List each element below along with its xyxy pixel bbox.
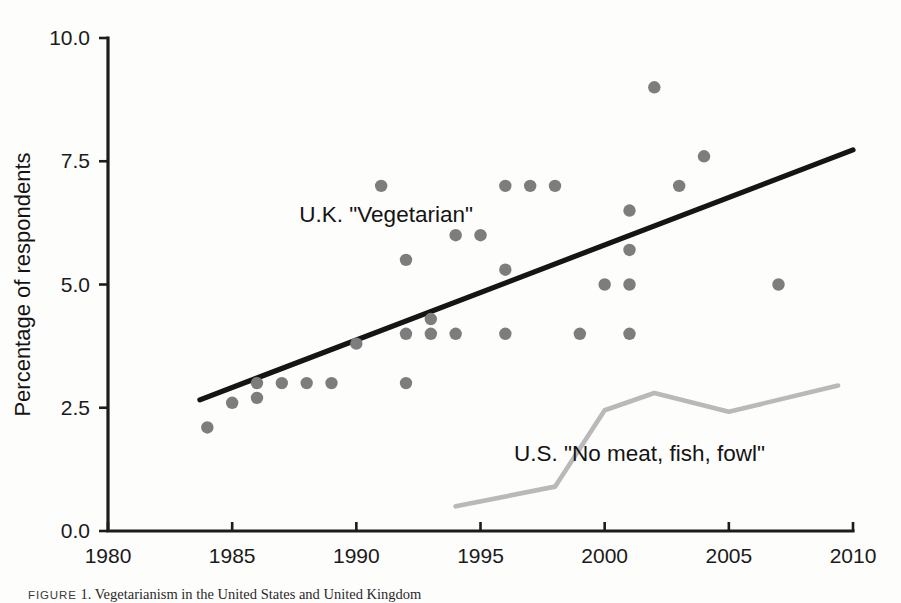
y-tick-label-0: 0.0 xyxy=(61,519,90,542)
figure-caption-number: 1. xyxy=(80,586,91,602)
us-series-label: U.S. "No meat, fish, fowl" xyxy=(514,441,765,466)
scatter-point xyxy=(251,377,263,389)
x-tick-label-1: 1985 xyxy=(209,544,256,567)
x-tick-label-0: 1980 xyxy=(85,544,132,567)
scatter-point xyxy=(474,229,486,241)
scatter-point xyxy=(400,254,412,266)
scatter-point xyxy=(648,81,660,93)
figure-caption: FIGURE 1. Vegetarianism in the United St… xyxy=(28,586,888,603)
y-axis-tick-labels: 0.02.55.07.510.0 xyxy=(49,26,90,542)
x-tick-label-3: 1995 xyxy=(457,544,504,567)
scatter-point xyxy=(673,180,685,192)
x-tick-label-6: 2010 xyxy=(830,544,877,567)
y-tick-label-4: 10.0 xyxy=(49,26,90,49)
scatter-point xyxy=(524,180,536,192)
scatter-point xyxy=(325,377,337,389)
figure-caption-label: FIGURE xyxy=(28,589,77,601)
scatter-point xyxy=(574,328,586,340)
scatter-point xyxy=(772,278,784,290)
scatter-point xyxy=(400,377,412,389)
x-tick-label-4: 2000 xyxy=(581,544,628,567)
figure-page: 1980198519901995200020052010 0.02.55.07.… xyxy=(0,0,901,603)
scatter-point xyxy=(276,377,288,389)
vegetarianism-chart: 1980198519901995200020052010 0.02.55.07.… xyxy=(0,0,901,603)
scatter-point xyxy=(201,421,213,433)
figure-caption-text: Vegetarianism in the United States and U… xyxy=(95,586,422,602)
scatter-point xyxy=(400,328,412,340)
uk-vegetarian-scatter xyxy=(201,81,785,434)
scatter-point xyxy=(623,244,635,256)
scatter-point xyxy=(375,180,387,192)
scatter-point xyxy=(598,278,610,290)
y-tick-label-3: 7.5 xyxy=(61,149,90,172)
scatter-point xyxy=(698,150,710,162)
y-tick-label-2: 5.0 xyxy=(61,273,90,296)
y-axis-label-text: Percentage of respondents xyxy=(10,152,35,416)
x-axis-tick-labels: 1980198519901995200020052010 xyxy=(85,544,877,567)
y-tick-label-1: 2.5 xyxy=(61,396,90,419)
scatter-point xyxy=(449,229,461,241)
scatter-point xyxy=(226,397,238,409)
scatter-point xyxy=(425,313,437,325)
scatter-point xyxy=(449,328,461,340)
scatter-point xyxy=(623,204,635,216)
x-tick-label-5: 2005 xyxy=(705,544,752,567)
scatter-point xyxy=(350,337,362,349)
scatter-point xyxy=(623,278,635,290)
x-tick-label-2: 1990 xyxy=(333,544,380,567)
scatter-point xyxy=(549,180,561,192)
scatter-point xyxy=(251,392,263,404)
scatter-point xyxy=(499,180,511,192)
scatter-point xyxy=(499,328,511,340)
y-axis-title: Percentage of respondents xyxy=(10,152,35,416)
scatter-point xyxy=(623,328,635,340)
uk-series-label: U.K. "Vegetarian" xyxy=(299,202,473,227)
scatter-point xyxy=(425,328,437,340)
scatter-point xyxy=(300,377,312,389)
scatter-point xyxy=(499,264,511,276)
